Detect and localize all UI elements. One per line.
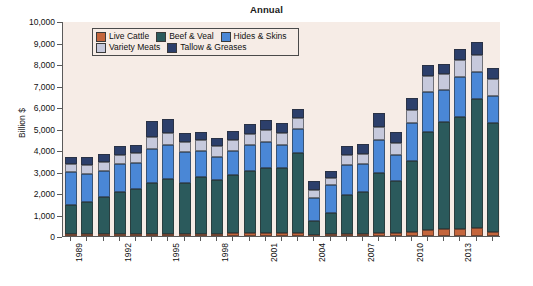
legend-row: Variety MeatsTallow & Greases <box>96 42 294 53</box>
x-tick-mark <box>200 237 201 241</box>
x-tick-mark <box>427 237 428 241</box>
x-tick-mark <box>459 237 460 241</box>
x-tick-label: 1992 <box>123 243 133 262</box>
chart-legend: Live CattleBeef & VealHides & SkinsVarie… <box>92 28 299 56</box>
legend-label: Hides & Skins <box>234 32 287 41</box>
x-tick-mark <box>167 237 168 241</box>
x-tick-mark <box>330 237 331 241</box>
x-tick-mark <box>476 237 477 241</box>
x-tick-mark <box>492 237 493 241</box>
legend-item[interactable]: Hides & Skins <box>221 32 287 42</box>
x-tick-mark <box>249 237 250 241</box>
x-tick-mark <box>184 237 185 241</box>
x-tick-mark <box>411 237 412 241</box>
x-tick-label: 1995 <box>171 243 181 262</box>
x-tick-mark <box>443 237 444 241</box>
x-tick-mark <box>313 237 314 241</box>
x-tick-mark <box>378 237 379 241</box>
x-tick-mark <box>346 237 347 241</box>
x-tick-mark <box>103 237 104 241</box>
x-tick-mark <box>216 237 217 241</box>
x-tick-mark <box>232 237 233 241</box>
x-tick-mark <box>362 237 363 241</box>
legend-swatch-icon <box>96 32 106 42</box>
chart-container: Annual Billion $ 01,0002,0003,0004,0005,… <box>0 0 533 286</box>
legend-swatch-icon <box>221 32 231 42</box>
x-tick-label: 1998 <box>220 243 230 262</box>
x-tick-label: 2010 <box>415 243 425 262</box>
x-tick-mark <box>135 237 136 241</box>
x-tick-mark <box>265 237 266 241</box>
legend-label: Live Cattle <box>109 32 149 41</box>
legend-row: Live CattleBeef & VealHides & Skins <box>96 31 294 42</box>
x-tick-label: 1989 <box>74 243 84 262</box>
legend-swatch-icon <box>156 32 166 42</box>
legend-swatch-icon <box>96 43 106 53</box>
legend-label: Beef & Veal <box>169 32 213 41</box>
x-tick-mark <box>151 237 152 241</box>
x-tick-mark <box>86 237 87 241</box>
legend-item[interactable]: Beef & Veal <box>156 32 213 42</box>
x-tick-label: 2001 <box>269 243 279 262</box>
legend-swatch-icon <box>167 43 177 53</box>
legend-label: Variety Meats <box>109 43 160 52</box>
legend-label: Tallow & Greases <box>180 43 246 52</box>
legend-item[interactable]: Tallow & Greases <box>167 43 246 53</box>
legend-item[interactable]: Variety Meats <box>96 43 160 53</box>
x-tick-mark <box>395 237 396 241</box>
x-tick-label: 2013 <box>463 243 473 262</box>
x-tick-mark <box>281 237 282 241</box>
x-tick-label: 2007 <box>366 243 376 262</box>
x-tick-label: 2004 <box>317 243 327 262</box>
legend-item[interactable]: Live Cattle <box>96 32 149 42</box>
x-tick-mark <box>297 237 298 241</box>
x-tick-mark <box>119 237 120 241</box>
x-tick-mark <box>70 237 71 241</box>
